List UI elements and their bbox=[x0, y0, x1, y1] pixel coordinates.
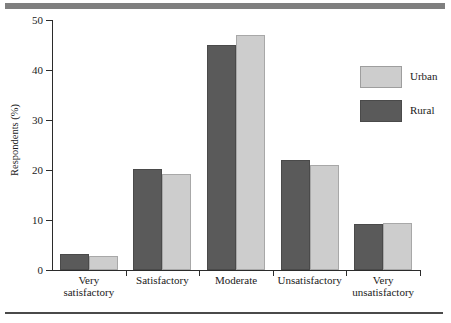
y-tick bbox=[46, 120, 52, 121]
bar-urban-3 bbox=[310, 165, 339, 270]
legend-label-urban: Urban bbox=[410, 70, 438, 82]
x-tick bbox=[346, 270, 347, 276]
y-tick bbox=[46, 220, 52, 221]
x-tick bbox=[126, 270, 127, 276]
x-tick bbox=[199, 270, 200, 276]
y-axis-line bbox=[52, 20, 53, 271]
y-tick-label: 40 bbox=[32, 64, 43, 76]
bar-rural-2 bbox=[207, 45, 236, 270]
y-tick bbox=[46, 70, 52, 71]
y-tick bbox=[46, 270, 52, 271]
y-tick bbox=[46, 20, 52, 21]
bar-rural-3 bbox=[281, 160, 310, 270]
bar-rural-0 bbox=[60, 254, 89, 270]
bar-urban-0 bbox=[89, 256, 118, 270]
figure-bar-chart: Respondents (%) 01020304050Very satisfac… bbox=[0, 0, 451, 323]
x-axis-line bbox=[52, 270, 420, 271]
x-tick bbox=[273, 270, 274, 276]
legend-swatch-rural-icon bbox=[360, 100, 402, 122]
bar-urban-4 bbox=[383, 223, 412, 271]
y-tick-label: 50 bbox=[32, 14, 43, 26]
y-axis-title: Respondents (%) bbox=[9, 104, 20, 176]
x-tick bbox=[420, 270, 421, 276]
y-tick-label: 20 bbox=[32, 164, 43, 176]
legend-swatch-urban-icon bbox=[360, 66, 402, 88]
x-category-label: Very unsatisfactory bbox=[352, 274, 414, 298]
bar-urban-2 bbox=[236, 35, 265, 270]
y-tick-label: 10 bbox=[32, 214, 43, 226]
x-category-label: Unsatisfactory bbox=[278, 274, 342, 286]
legend-label-rural: Rural bbox=[410, 104, 434, 116]
bar-rural-1 bbox=[133, 169, 162, 270]
top-rule bbox=[5, 3, 445, 9]
bar-rural-4 bbox=[354, 224, 383, 270]
x-category-label: Moderate bbox=[215, 274, 257, 286]
y-tick bbox=[46, 170, 52, 171]
x-category-label: Very satisfactory bbox=[63, 274, 114, 298]
x-category-label: Satisfactory bbox=[136, 274, 189, 286]
bottom-rule bbox=[5, 312, 443, 314]
bar-urban-1 bbox=[162, 174, 191, 270]
plot-area: 01020304050Very satisfactorySatisfactory… bbox=[52, 20, 420, 270]
y-tick-label: 30 bbox=[32, 114, 43, 126]
y-tick-label: 0 bbox=[38, 264, 44, 276]
